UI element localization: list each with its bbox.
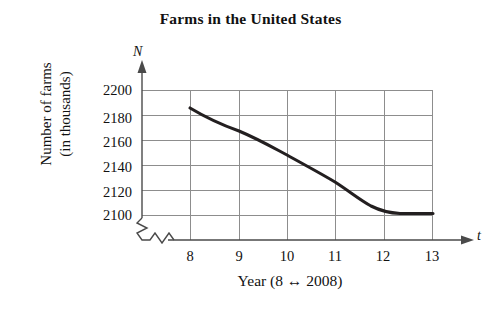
x-axis-arrow-icon — [461, 236, 474, 245]
axis-break-zigzag-icon — [137, 218, 174, 243]
chart-plot-area — [0, 0, 501, 317]
data-series-line-number-of-farms — [190, 108, 433, 214]
y-axis-arrow-icon — [138, 60, 147, 73]
chart-figure: Farms in the United States N t Number of… — [0, 0, 501, 317]
